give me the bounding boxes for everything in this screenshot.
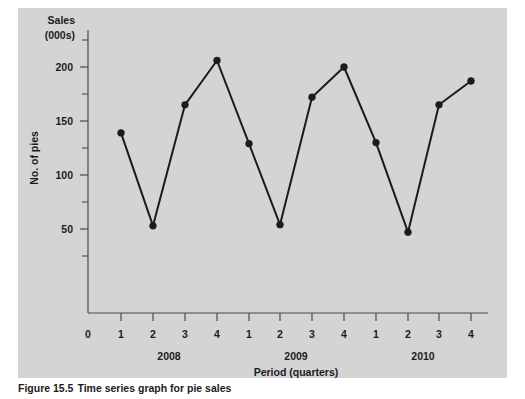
series-line-pie-sales <box>121 61 471 233</box>
data-point <box>150 222 157 229</box>
y-axis-minor-ticks <box>82 40 88 256</box>
x-tick-label-origin: 0 <box>85 328 91 340</box>
y-axis-unit-line1: Sales <box>48 14 76 26</box>
data-point <box>277 221 284 228</box>
x-tick-label-7: 4 <box>341 328 347 340</box>
x-tick-label-2: 3 <box>182 328 188 340</box>
data-point <box>436 101 443 108</box>
x-tick-label-1: 2 <box>150 328 156 340</box>
figure-caption-label: Figure 15.5 <box>18 382 73 394</box>
x-tick-label-10: 3 <box>436 328 442 340</box>
y-tick-label-100: 100 <box>55 169 73 181</box>
x-tick-label-3: 4 <box>214 328 220 340</box>
y-axis-unit-line2: (000s) <box>45 29 75 41</box>
figure-caption: Figure 15.5Time series graph for pie sal… <box>18 382 518 399</box>
data-point <box>214 57 221 64</box>
data-point <box>373 139 380 146</box>
data-point <box>405 229 412 236</box>
x-tick-label-0: 1 <box>118 328 124 340</box>
x-axis-ticks <box>121 313 471 321</box>
x-group-label-2009: 2009 <box>284 350 308 362</box>
data-point <box>468 78 475 85</box>
x-tick-label-5: 2 <box>277 328 283 340</box>
x-tick-label-9: 2 <box>405 328 411 340</box>
figure-root: 200 150 100 50 Sales (000s) No. of pies <box>0 0 525 399</box>
x-tick-label-4: 1 <box>246 328 252 340</box>
y-tick-label-150: 150 <box>55 115 73 127</box>
data-point <box>182 101 189 108</box>
x-axis-title: Period (quarters) <box>254 366 339 378</box>
series-markers-group <box>118 57 475 236</box>
time-series-chart: 200 150 100 50 Sales (000s) No. of pies <box>18 8 507 378</box>
y-tick-label-50: 50 <box>61 223 73 235</box>
x-tick-label-8: 1 <box>373 328 379 340</box>
y-tick-label-200: 200 <box>55 61 73 73</box>
figure-caption-text: Time series graph for pie sales <box>77 382 231 394</box>
data-point <box>309 94 316 101</box>
chart-panel: 200 150 100 50 Sales (000s) No. of pies <box>18 8 507 378</box>
data-point <box>118 130 125 137</box>
x-tick-label-11: 4 <box>468 328 474 340</box>
x-group-label-2008: 2008 <box>157 350 181 362</box>
x-tick-label-6: 3 <box>309 328 315 340</box>
x-group-label-2010: 2010 <box>411 350 435 362</box>
y-axis-title: No. of pies <box>28 131 40 185</box>
data-point <box>246 140 253 147</box>
data-point <box>341 64 348 71</box>
